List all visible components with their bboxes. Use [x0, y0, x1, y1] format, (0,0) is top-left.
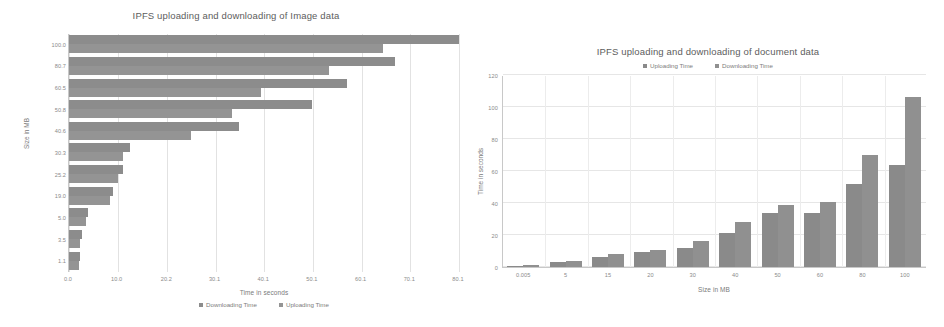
left-chart-title: IPFS uploading and downloading of Image …	[0, 10, 472, 21]
bar-downloading-time	[608, 254, 624, 267]
legend-label: Downloading Time	[722, 62, 773, 69]
x-tick-label: 0.005	[516, 272, 531, 278]
gridline-vertical	[757, 76, 758, 267]
bar-downloading-time	[69, 143, 130, 152]
legend-item[interactable]: Downloading Time	[199, 301, 257, 308]
bar-group	[804, 75, 836, 267]
bar-downloading-time	[650, 250, 666, 267]
y-tick-label: 1.1	[58, 258, 66, 264]
left-legend: Downloading TimeUploading Time	[68, 301, 460, 308]
gridline-vertical	[588, 76, 589, 267]
bar-uploading-time	[762, 213, 778, 267]
bar-group	[69, 229, 460, 251]
legend-item[interactable]: Uploading Time	[279, 301, 329, 308]
bar-downloading-time	[905, 97, 921, 267]
x-tick-label: 20.2	[161, 276, 172, 282]
right-x-tick-labels: 0.005515203040506080100	[502, 272, 926, 284]
x-tick-label: 50	[774, 272, 780, 278]
y-tick-label: 5.0	[58, 215, 66, 221]
gridline-vertical	[885, 76, 886, 267]
bar-downloading-time	[69, 122, 239, 131]
left-x-axis-title: Time in seconds	[68, 289, 460, 296]
bar-uploading-time	[69, 66, 329, 75]
legend-item[interactable]: Downloading Time	[715, 62, 773, 69]
x-tick-label: 60.1	[355, 276, 366, 282]
bar-uploading-time	[69, 217, 86, 226]
bar-uploading-time	[677, 248, 693, 267]
bar-group	[69, 56, 460, 78]
legend-swatch-icon	[279, 303, 283, 307]
legend-swatch-icon	[199, 303, 203, 307]
y-tick-label: 120	[488, 73, 498, 79]
y-tick-label: 20	[492, 233, 498, 239]
x-tick-label: 50.1	[306, 276, 317, 282]
y-tick-label: 40	[492, 201, 498, 207]
x-tick-label: 40	[732, 272, 738, 278]
bar-group	[846, 75, 878, 267]
bar-downloading-time	[69, 35, 459, 44]
y-tick-label: 19.0	[55, 193, 66, 199]
y-tick-label: 60	[492, 169, 498, 175]
bar-downloading-time	[69, 79, 347, 88]
gridline-vertical	[715, 76, 716, 267]
bar-downloading-time	[69, 230, 82, 239]
bar-downloading-time	[820, 202, 836, 267]
y-tick-label: 80.7	[55, 63, 66, 69]
x-tick-label: 5	[564, 272, 567, 278]
bar-downloading-time	[69, 57, 395, 66]
x-tick-label: 0.0	[64, 276, 72, 282]
bar-downloading-time	[69, 252, 80, 261]
bar-group	[69, 164, 460, 186]
bar-downloading-time	[778, 205, 794, 267]
left-y-axis-title: Size in MB	[23, 104, 30, 164]
x-tick-label: 30	[690, 272, 696, 278]
bar-uploading-time	[889, 165, 905, 267]
y-tick-label: 30.3	[55, 150, 66, 156]
bar-group	[634, 75, 666, 267]
gridline-vertical	[545, 76, 546, 267]
x-tick-label: 10.0	[111, 276, 122, 282]
bar-group	[69, 250, 460, 272]
legend-item[interactable]: Uploading Time	[643, 62, 693, 69]
x-tick-label: 70.1	[404, 276, 415, 282]
legend-swatch-icon	[643, 64, 647, 68]
bar-downloading-time	[566, 261, 582, 267]
bar-downloading-time	[69, 208, 88, 217]
right-y-tick-labels: 020406080100120	[476, 76, 498, 268]
x-tick-label: 80.1	[452, 276, 463, 282]
right-chart-title: IPFS uploading and downloading of docume…	[472, 46, 944, 57]
y-tick-label: 60.5	[55, 85, 66, 91]
x-tick-label: 15	[605, 272, 611, 278]
bar-downloading-time	[862, 155, 878, 267]
legend-label: Downloading Time	[206, 301, 257, 308]
bar-downloading-time	[735, 222, 751, 267]
left-plot-area	[68, 34, 460, 272]
legend-label: Uploading Time	[650, 62, 693, 69]
x-tick-label: 30.1	[209, 276, 220, 282]
left-y-tick-labels: 100.080.760.550.840.630.325.219.05.03.51…	[40, 34, 66, 272]
right-plot-area	[502, 76, 926, 268]
bar-group	[69, 99, 460, 121]
bar-downloading-time	[693, 241, 709, 267]
y-tick-label: 3.5	[58, 237, 66, 243]
bar-uploading-time	[550, 262, 566, 267]
bar-uploading-time	[634, 252, 650, 267]
bar-uploading-time	[719, 233, 735, 267]
bar-uploading-time	[69, 152, 123, 161]
bar-uploading-time	[69, 196, 110, 205]
bar-group	[762, 75, 794, 267]
gridline-vertical	[673, 76, 674, 267]
bar-uploading-time	[69, 88, 261, 97]
bar-group	[592, 75, 624, 267]
y-tick-label: 40.6	[55, 128, 66, 134]
y-tick-label: 80	[492, 137, 498, 143]
gridline-vertical	[800, 76, 801, 267]
bar-group	[550, 75, 582, 267]
legend-label: Uploading Time	[286, 301, 329, 308]
x-tick-label: 80	[859, 272, 865, 278]
bar-uploading-time	[846, 184, 862, 267]
bar-uploading-time	[69, 174, 118, 183]
bar-uploading-time	[69, 109, 232, 118]
x-tick-label: 40.1	[258, 276, 269, 282]
bar-uploading-time	[507, 266, 523, 267]
